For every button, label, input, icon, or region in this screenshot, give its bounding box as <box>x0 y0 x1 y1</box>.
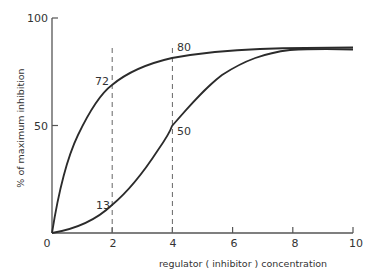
y-tick-label-100: 100 <box>27 12 48 25</box>
saturation-chart: 100 50 0 2 4 6 8 10 regulator ( inhibito… <box>0 0 371 280</box>
annotation-80: 80 <box>177 41 191 54</box>
x-axis-title: regulator ( inhibitor ) concentration <box>159 258 327 269</box>
annotation-72: 72 <box>95 75 109 88</box>
x-tick-label-10: 10 <box>349 237 363 250</box>
x-tick-label-2: 2 <box>110 237 117 250</box>
x-tick-label-6: 6 <box>231 237 238 250</box>
y-axis-title: % of maximum inhibition <box>15 68 26 187</box>
x-tick-label-0: 0 <box>44 237 51 250</box>
annotation-13: 13 <box>96 199 110 212</box>
x-tick-label-4: 4 <box>170 237 177 250</box>
x-tick-label-8: 8 <box>292 237 299 250</box>
annotation-50: 50 <box>177 125 191 138</box>
y-tick-label-50: 50 <box>34 120 48 133</box>
